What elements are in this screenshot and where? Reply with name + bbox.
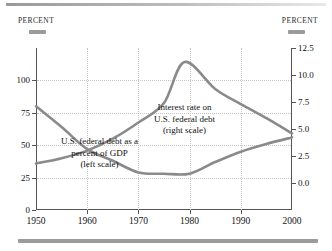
annotation-interest-line1: Interest rate on <box>154 102 215 114</box>
right-axis-tick-label: 12.5 <box>298 44 314 53</box>
x-axis-tick-label: 1970 <box>129 217 148 227</box>
x-axis-tick <box>138 210 139 214</box>
annotation-debt-line3: (left scale) <box>61 159 138 171</box>
annotation-interest-rate: Interest rate on U.S. federal debt (righ… <box>154 102 215 137</box>
right-axis-tick-label: 10.0 <box>298 71 314 80</box>
left-axis-tick-label: 0 <box>26 206 31 215</box>
left-axis-title: Percent <box>18 16 54 25</box>
top-divider-rule <box>6 3 326 6</box>
bottom-divider-rule <box>18 239 318 243</box>
left-axis-tick-label: 25 <box>21 173 30 182</box>
left-axis-tick-label: 75 <box>21 108 30 117</box>
plot-area: 0255075100 0.02.55.07.510.012.5 19501960… <box>36 48 292 210</box>
right-axis-tick-label: 0.0 <box>298 179 309 188</box>
x-axis-tick <box>241 210 242 214</box>
annotation-federal-debt: U.S. federal debt as a percent of GDP (l… <box>61 136 138 171</box>
left-axis-tick-label: 100 <box>17 76 31 85</box>
x-axis-tick <box>87 210 88 214</box>
x-axis-tick-label: 2000 <box>283 217 302 227</box>
x-axis-tick-label: 1950 <box>27 217 46 227</box>
x-axis-tick <box>190 210 191 214</box>
right-axis-tick <box>292 183 296 184</box>
left-axis-tick-label: 50 <box>21 141 30 150</box>
figure-container: Percent Percent 0255075100 0.02.55.07.51… <box>0 0 332 251</box>
right-axis-tick-label: 7.5 <box>298 98 309 107</box>
left-series-swatch-icon <box>29 30 46 34</box>
right-axis-tick <box>292 48 296 49</box>
x-axis-tick-label: 1960 <box>78 217 97 227</box>
right-axis-tick-label: 2.5 <box>298 152 309 161</box>
right-series-swatch-icon <box>288 30 305 34</box>
left-axis-tick <box>32 210 36 211</box>
annotation-interest-line2: U.S. federal debt <box>154 114 215 126</box>
right-axis-title: Percent <box>282 16 318 25</box>
right-axis-tick <box>292 129 296 130</box>
right-axis-tick <box>292 156 296 157</box>
annotation-debt-line2: percent of GDP <box>61 148 138 160</box>
x-axis-tick-label: 1980 <box>180 217 199 227</box>
right-axis-tick <box>292 102 296 103</box>
right-axis-tick <box>292 75 296 76</box>
x-axis-tick-label: 1990 <box>231 217 250 227</box>
annotation-debt-line1: U.S. federal debt as a <box>61 136 138 148</box>
annotation-interest-line3: (right scale) <box>154 125 215 137</box>
right-axis-tick-label: 5.0 <box>298 125 309 134</box>
